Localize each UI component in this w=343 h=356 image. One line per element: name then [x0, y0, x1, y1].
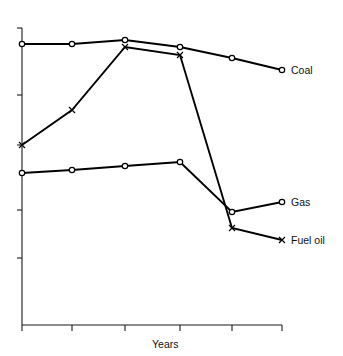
- x-axis-ticks: [22, 325, 282, 331]
- series-label-coal: Coal: [291, 64, 313, 76]
- series-gas-line: [22, 162, 282, 212]
- x-axis-title: Years: [152, 338, 178, 350]
- series-fuel-oil-line: [22, 47, 282, 240]
- series-coal-line: [22, 40, 282, 70]
- axes-group: [22, 28, 282, 325]
- series-label-fuel-oil: Fuel oil: [291, 234, 325, 246]
- series-gas: [19, 159, 284, 214]
- line-chart-figure: Coal Gas Fuel oil Years: [0, 0, 343, 356]
- series-gas-markers: [19, 159, 284, 214]
- series-coal: [19, 37, 284, 72]
- chart-canvas: Coal Gas Fuel oil Years: [0, 0, 343, 356]
- series-fuel-oil-markers: [19, 44, 285, 243]
- series-label-gas: Gas: [291, 196, 310, 208]
- series-fuel-oil: [19, 44, 285, 243]
